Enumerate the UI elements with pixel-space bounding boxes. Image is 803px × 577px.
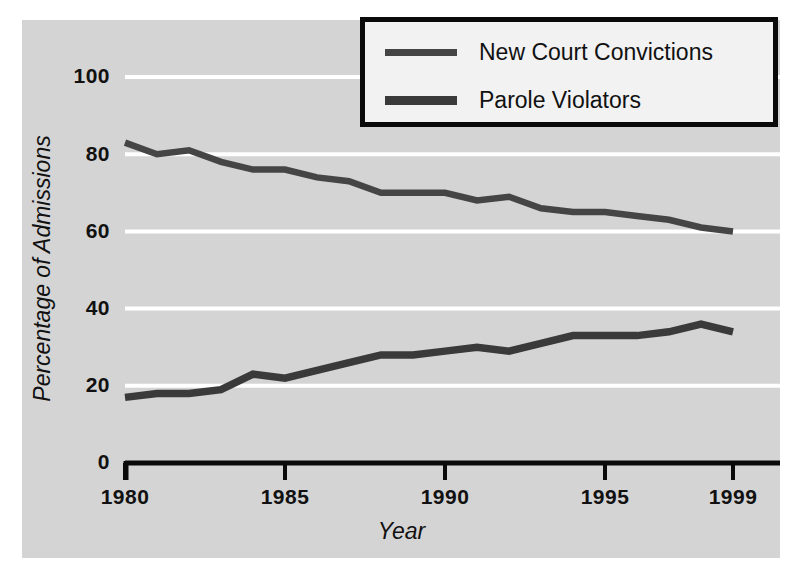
data-series-lines xyxy=(125,143,733,398)
x-tick-label-1985: 1985 xyxy=(235,485,335,509)
legend-line-swatch-icon xyxy=(385,96,457,105)
chart-legend: New Court Convictions Parole Violators xyxy=(360,17,778,127)
legend-item-parole-violators: Parole Violators xyxy=(365,76,773,124)
legend-item-new-court-convictions: New Court Convictions xyxy=(365,28,773,76)
x-axis-ticks xyxy=(125,463,733,480)
x-tick-label-1980: 1980 xyxy=(75,485,175,509)
y-tick-label-0: 0 xyxy=(30,450,110,474)
x-axis-line xyxy=(125,461,780,480)
x-axis-title: Year xyxy=(0,518,803,545)
legend-item-label: New Court Convictions xyxy=(479,39,713,66)
legend-item-label: Parole Violators xyxy=(479,87,641,114)
chart-container: 100 80 60 40 20 0 1980 1985 1990 1995 19… xyxy=(0,0,803,577)
y-tick-label-100: 100 xyxy=(30,64,110,88)
x-tick-label-1995: 1995 xyxy=(555,485,655,509)
x-tick-label-1999: 1999 xyxy=(683,485,783,509)
x-tick-label-1990: 1990 xyxy=(395,485,495,509)
y-axis-title: Percentage of Admissions xyxy=(29,119,56,419)
legend-line-swatch-icon xyxy=(385,49,457,56)
